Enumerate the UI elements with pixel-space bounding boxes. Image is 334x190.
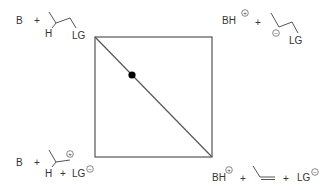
alkene-skeleton-icon bbox=[253, 166, 275, 177]
leaving-group-label: LG bbox=[72, 30, 86, 41]
base-label: B bbox=[16, 15, 23, 26]
negative-charge-symbol: − bbox=[313, 169, 317, 175]
positive-charge-symbol: + bbox=[227, 167, 231, 173]
corner-bottom-left-carbocation: B + + H + LG − bbox=[16, 150, 93, 179]
corner-top-right-carbanion: BH + + − LG bbox=[222, 10, 303, 46]
base-label: B bbox=[16, 157, 23, 168]
conjugate-acid-label: BH bbox=[222, 15, 236, 26]
hydrogen-label: H bbox=[45, 28, 52, 39]
positive-charge-symbol: + bbox=[68, 151, 72, 157]
h-bond-icon bbox=[52, 23, 56, 28]
transition-state-dot bbox=[128, 71, 135, 78]
plus-sign: + bbox=[60, 168, 66, 179]
corner-top-left-reactants: B + H LG bbox=[16, 12, 86, 41]
negative-charge-symbol: − bbox=[274, 30, 278, 36]
plus-sign: + bbox=[240, 173, 246, 184]
positive-charge-symbol: + bbox=[243, 10, 247, 16]
leaving-group-label: LG bbox=[289, 35, 303, 46]
corner-bottom-right-products: BH + + + LG − bbox=[212, 166, 318, 184]
negative-charge-symbol: − bbox=[88, 166, 92, 172]
plus-sign: + bbox=[34, 15, 40, 26]
leaving-group-label: LG bbox=[297, 172, 311, 183]
h-bond-icon bbox=[52, 162, 56, 167]
more-ofarrall-jencks-diagram: B + H LG BH + + − LG B + + H + LG − BH +… bbox=[0, 0, 334, 190]
carbocation-skeleton-icon bbox=[49, 150, 70, 162]
substrate-skeleton-icon bbox=[49, 12, 76, 28]
concerted-pathway-diagonal bbox=[95, 37, 212, 157]
plus-sign: + bbox=[283, 173, 289, 184]
hydrogen-label: H bbox=[45, 168, 52, 179]
conjugate-acid-label: BH bbox=[212, 172, 226, 183]
plus-sign: + bbox=[34, 157, 40, 168]
plus-sign: + bbox=[255, 17, 261, 28]
leaving-group-label: LG bbox=[72, 168, 86, 179]
